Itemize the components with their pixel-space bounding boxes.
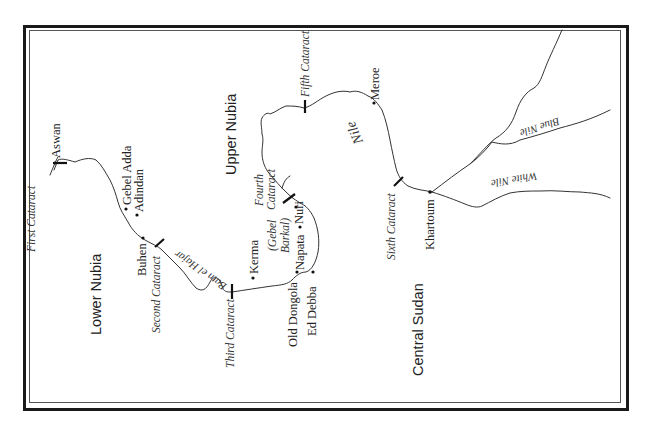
- label-second-cataract: Second Cataract: [151, 256, 163, 333]
- nile-river-line: [50, 91, 432, 292]
- ed-debba-dot: [311, 270, 314, 273]
- sixth-cataract-mark: [394, 177, 403, 186]
- adindan-dot: [135, 213, 138, 216]
- place-buhen: Buhen: [136, 243, 149, 276]
- region-lower-nubia: Lower Nubia: [89, 254, 104, 335]
- place-adindan: Adindan: [133, 169, 146, 212]
- place-old-dongola: Old Dongola: [287, 282, 300, 347]
- gebel-adda-dot: [124, 207, 127, 210]
- white-nile-line: [432, 191, 610, 207]
- label-sixth-cataract: Sixth Cataract: [386, 193, 398, 260]
- napata-dot: [298, 225, 301, 228]
- label-fourth-cataract-line2: Cataract: [266, 169, 278, 210]
- buhen-dot: [141, 236, 144, 239]
- place-meroe: Meroe: [369, 67, 382, 100]
- second-cataract-mark: [155, 239, 164, 247]
- place-kerma: Kerma: [248, 240, 261, 274]
- label-third-cataract: Third Cataract: [225, 299, 237, 368]
- region-upper-nubia: Upper Nubia: [224, 94, 239, 175]
- label-fifth-cataract: Fifth Cataract: [300, 31, 312, 97]
- nile-map-drawing: [0, 0, 650, 434]
- kerma-dot: [251, 276, 254, 279]
- label-fourth-cataract-line1: Fourth: [254, 174, 266, 206]
- khartoum-dot: [428, 190, 432, 194]
- wadi-line-nuri: [282, 176, 290, 188]
- place-gebel-barkal-line1: (Gebel: [267, 220, 279, 251]
- label-first-cataract: First Cataract: [26, 186, 38, 252]
- place-khartoum: Khartoum: [424, 199, 437, 250]
- old-dongola-dot: [295, 270, 298, 273]
- region-central-sudan: Central Sudan: [411, 283, 426, 376]
- place-aswan: Aswan: [50, 123, 63, 158]
- place-nuri: Nuri: [293, 201, 306, 224]
- aswan-dot: [53, 161, 56, 164]
- place-gebel-barkal-line2: Barkal): [280, 218, 292, 253]
- place-napata: Napata: [294, 235, 307, 270]
- atbara-river-line: [470, 30, 562, 164]
- meroe-dot: [372, 101, 375, 104]
- place-ed-debba: Ed Debba: [306, 286, 319, 336]
